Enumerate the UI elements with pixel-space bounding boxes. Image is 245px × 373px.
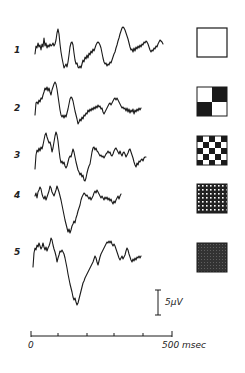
amplitude-scale-label: 5μV: [165, 297, 183, 307]
time-axis: [31, 331, 172, 337]
amplitude-scale-bar: [155, 290, 161, 315]
trace-4: [35, 186, 121, 233]
trace-5: [33, 238, 141, 305]
trace-label-4: 4: [13, 190, 20, 200]
time-axis-start-label: 0: [28, 340, 34, 350]
trace-label-5: 5: [14, 247, 20, 257]
trace-label-2: 2: [14, 103, 20, 113]
trace-2: [35, 82, 141, 124]
stimulus-blank-icon: [197, 28, 227, 57]
vep-figure: 1 2 3 4 5: [0, 0, 245, 373]
trace-1: [35, 27, 163, 68]
trace-3: [35, 132, 146, 181]
stimulus-checkerboard-5x5-icon: [197, 136, 227, 165]
stimulus-checkerboard-very-fine-icon: [197, 243, 227, 272]
stimulus-checkerboard-fine-icon: [197, 184, 227, 213]
time-axis-end-label: 500 msec: [162, 340, 206, 350]
stimulus-checkerboard-2x2-icon: [197, 87, 227, 116]
trace-label-3: 3: [14, 150, 20, 160]
trace-label-1: 1: [14, 45, 20, 55]
